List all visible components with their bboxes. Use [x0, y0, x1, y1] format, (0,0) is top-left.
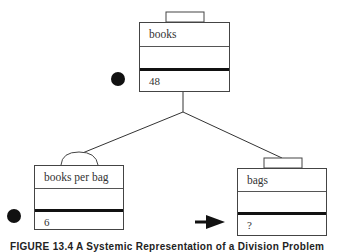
- books-handle: [166, 12, 204, 22]
- books-per-bag-handle: [61, 152, 98, 165]
- node-books-per-bag: books per bag 6: [34, 165, 124, 230]
- edge-books-to-books-per-bag: [80, 112, 183, 154]
- bags-handle: [264, 158, 302, 168]
- dot-icon: [7, 209, 21, 223]
- edge-books-to-bags: [183, 112, 282, 158]
- node-label: books per bag: [35, 166, 123, 189]
- node-value: 6: [35, 212, 123, 230]
- node-label: books: [140, 23, 229, 47]
- node-value: ?: [238, 215, 326, 236]
- node-books: books 48: [139, 22, 230, 92]
- node-blank-row: [140, 47, 229, 71]
- arrow-icon: [195, 215, 225, 229]
- node-blank-row: [238, 192, 326, 215]
- node-value: 48: [140, 71, 229, 92]
- node-label: bags: [238, 169, 326, 192]
- node-blank-row: [35, 189, 123, 212]
- node-bags: bags ?: [237, 168, 327, 236]
- dot-icon: [111, 72, 125, 86]
- figure-caption: FIGURE 13.4 A Systemic Representation of…: [10, 241, 324, 252]
